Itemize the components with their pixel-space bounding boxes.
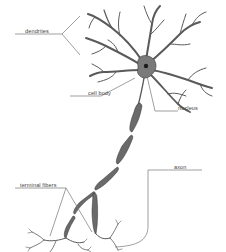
leader-lines [15, 16, 202, 247]
axon-label: axon [174, 164, 187, 170]
nucleus-label: nucleus [178, 105, 198, 111]
cell-body-shape [138, 55, 157, 78]
nucleus-dot [144, 64, 148, 68]
neuron-diagram: dendrites cell body nucleus axon termina… [0, 0, 226, 252]
terminal-fibers-branches [26, 220, 122, 252]
myelin-sheaths [64, 103, 142, 238]
cell-body-label: cell body [88, 90, 111, 96]
terminal-fibers-label: terminal fibers [20, 182, 57, 188]
dendrites-label: dendrites [25, 28, 49, 34]
axon-shape [64, 78, 144, 238]
